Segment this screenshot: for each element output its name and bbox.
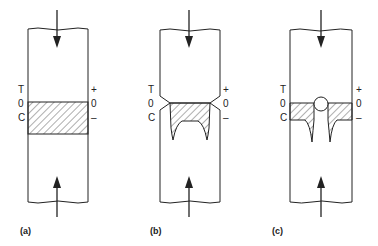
hatched-zone-c-right <box>328 103 352 142</box>
hatched-zone-a <box>28 102 88 134</box>
label-minus: – <box>356 112 362 123</box>
label-tension: T <box>18 84 24 95</box>
caption-b: (b) <box>150 226 162 236</box>
label-plus: + <box>91 84 97 95</box>
label-plus: + <box>223 84 229 95</box>
label-compression: C <box>148 112 155 123</box>
arrow-down-icon <box>317 10 325 48</box>
panel-c: T 0 C + 0 – (c) <box>272 10 362 236</box>
crack-tip-diagram: T 0 C + 0 – (a) T 0 C + 0 – (b) <box>0 0 378 246</box>
void-circle <box>314 97 328 111</box>
caption-a: (a) <box>20 226 31 236</box>
label-plus: + <box>356 84 362 95</box>
arrow-up-icon <box>53 176 61 217</box>
label-zero: 0 <box>280 98 286 109</box>
hatched-zone-c-left <box>290 103 314 142</box>
label-compression: C <box>18 112 25 123</box>
arrow-up-icon <box>185 176 193 217</box>
label-compression: C <box>280 112 287 123</box>
label-tension: T <box>148 84 154 95</box>
label-zero: 0 <box>148 98 154 109</box>
label-tension: T <box>280 84 286 95</box>
panel-b: T 0 C + 0 – (b) <box>148 10 229 236</box>
panel-a: T 0 C + 0 – (a) <box>18 10 97 236</box>
arrow-up-icon <box>317 176 325 217</box>
label-minus: – <box>223 112 229 123</box>
label-zero-right: 0 <box>91 98 97 109</box>
arrow-down-icon <box>185 10 193 48</box>
label-zero-right: 0 <box>356 98 362 109</box>
label-zero: 0 <box>18 98 24 109</box>
arrow-down-icon <box>53 10 61 48</box>
hatched-zone-b <box>170 103 210 140</box>
label-minus: – <box>91 112 97 123</box>
caption-c: (c) <box>272 226 283 236</box>
label-zero-right: 0 <box>223 98 229 109</box>
